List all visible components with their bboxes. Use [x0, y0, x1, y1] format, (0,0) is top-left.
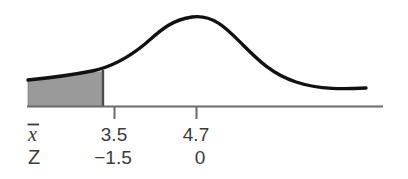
row-label-xbar: x [27, 123, 37, 145]
tick-2-xbar-label: 4.7 [183, 124, 209, 145]
tick-1-xbar-label: 3.5 [101, 124, 127, 145]
tick-1-z-label: −1.5 [94, 147, 132, 168]
tick-2-z-label: 0 [195, 147, 206, 168]
distribution-plot: x Z 3.5 −1.5 4.7 0 [0, 0, 408, 179]
row-label-z: Z [28, 146, 40, 168]
normal-distribution-figure: x Z 3.5 −1.5 4.7 0 [0, 0, 408, 179]
